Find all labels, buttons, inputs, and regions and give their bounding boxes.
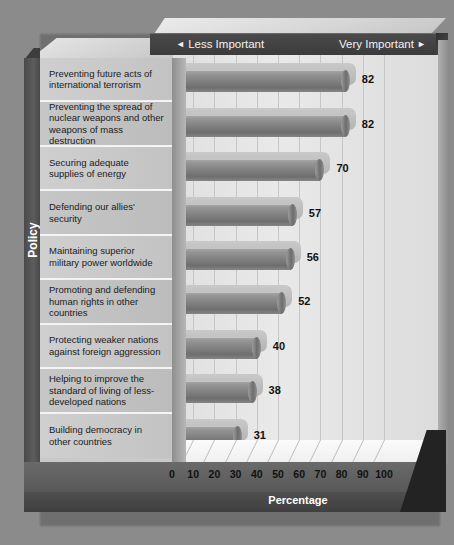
bar-end-cap	[277, 292, 286, 314]
category-label-text: Helping to improve the standard of livin…	[40, 373, 172, 408]
policy-axis-strip	[24, 58, 40, 462]
bar[interactable]	[172, 292, 282, 314]
left-arrow-icon: ◄	[176, 39, 185, 49]
scale-less-important-label: Less Important	[188, 38, 264, 50]
bar-value-label: 70	[336, 162, 348, 174]
x-tick-label-30: 30	[230, 468, 242, 480]
category-label-text: Promoting and defending human rights in …	[40, 284, 172, 319]
x-tick-label-80: 80	[336, 468, 348, 480]
category-label-row[interactable]: Securing adequate supplies of energy	[40, 147, 172, 191]
bar[interactable]	[172, 204, 293, 226]
category-panel-edge	[172, 58, 186, 462]
category-label-text: Defending our allies' security	[40, 201, 172, 224]
x-tick-label-0: 0	[169, 468, 175, 480]
bar[interactable]	[172, 159, 320, 181]
x-tick-label-20: 20	[209, 468, 221, 480]
scale-direction-band: ◄ Less Important Very Important ►	[150, 33, 438, 55]
category-label-text: Protecting weaker nations against foreig…	[40, 334, 172, 357]
category-label-text: Building democracy in other countries	[40, 424, 172, 447]
bar-end-cap	[315, 159, 324, 181]
bar-end-cap	[252, 337, 261, 359]
bar-end-cap	[341, 70, 350, 92]
bar-value-label: 31	[254, 429, 266, 441]
plot-right-wall	[438, 40, 448, 465]
scale-less-important: ◄ Less Important	[176, 33, 264, 55]
x-tick-label-70: 70	[315, 468, 327, 480]
scale-very-important: Very Important ►	[339, 33, 426, 55]
bar-value-label: 56	[307, 251, 319, 263]
bar[interactable]	[172, 115, 346, 137]
bar-end-cap	[341, 115, 350, 137]
bar-end-cap	[288, 204, 297, 226]
category-label-row[interactable]: Promoting and defending human rights in …	[40, 280, 172, 324]
category-label-panel: Preventing future acts of international …	[40, 58, 172, 462]
category-label-row[interactable]: Maintaining superior military power worl…	[40, 236, 172, 280]
x-tick-label-100: 100	[375, 468, 393, 480]
category-label-text: Preventing the spread of nuclear weapons…	[40, 101, 172, 147]
bar-value-label: 52	[298, 295, 310, 307]
x-tick-label-60: 60	[293, 468, 305, 480]
category-label-row[interactable]: Helping to improve the standard of livin…	[40, 369, 172, 413]
bar-value-label: 57	[309, 207, 321, 219]
x-tick-label-50: 50	[272, 468, 284, 480]
bar-value-label: 38	[269, 384, 281, 396]
chart-3d-horizontal-bar: ◄ Less Important Very Important ► 828270…	[0, 0, 454, 545]
x-tick-label-10: 10	[187, 468, 199, 480]
category-label-text: Maintaining superior military power worl…	[40, 245, 172, 268]
x-tick-label-90: 90	[357, 468, 369, 480]
category-label-row[interactable]: Preventing future acts of international …	[40, 58, 172, 102]
bar[interactable]	[172, 70, 346, 92]
bar[interactable]	[172, 248, 291, 270]
category-label-text: Preventing future acts of international …	[40, 68, 172, 91]
bar-value-label: 82	[362, 73, 374, 85]
x-tick-label-40: 40	[251, 468, 263, 480]
category-label-row[interactable]: Building democracy in other countries	[40, 414, 172, 458]
x-axis-ticks: 0102030405060708090100	[172, 468, 438, 482]
bar-end-cap	[286, 248, 295, 270]
category-label-text: Securing adequate supplies of energy	[40, 157, 172, 180]
x-axis-title: Percentage	[172, 494, 424, 506]
bar-series: 828270575652403831	[172, 55, 438, 455]
category-label-row[interactable]: Protecting weaker nations against foreig…	[40, 325, 172, 369]
scale-very-important-label: Very Important	[339, 38, 414, 50]
plot-area: 828270575652403831	[172, 55, 438, 455]
category-label-row[interactable]: Defending our allies' security	[40, 191, 172, 235]
category-label-row[interactable]: Preventing the spread of nuclear weapons…	[40, 102, 172, 146]
bar-value-label: 82	[362, 118, 374, 130]
bar-end-cap	[248, 381, 257, 403]
right-arrow-icon: ►	[417, 39, 426, 49]
bar-value-label: 40	[273, 340, 285, 352]
